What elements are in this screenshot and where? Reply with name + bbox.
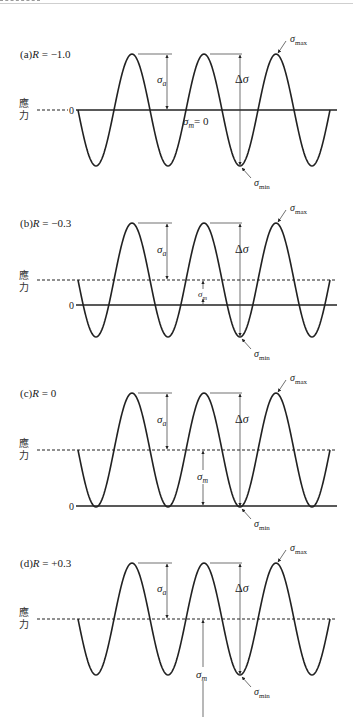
stress-axis-label: 力 xyxy=(19,281,29,293)
zero-label: 0 xyxy=(69,300,74,311)
panel-d: (d)R = +0.3應力σaΔσσmaxσminσm xyxy=(19,542,337,717)
panel-title: (b)R = −0.3 xyxy=(20,217,72,230)
sigma-m-label: σm xyxy=(198,289,207,301)
sigma-a-label: σa xyxy=(157,243,166,258)
stress-axis-label: 應 xyxy=(19,437,29,449)
panel-title: (d)R = +0.3 xyxy=(20,557,72,570)
delta-sigma-label: Δσ xyxy=(235,72,250,86)
panel-title: (a)R = −1.0 xyxy=(20,48,71,61)
sigma-min-pointer xyxy=(242,339,251,349)
sigma-min-label: σmin xyxy=(254,686,270,700)
stress-axis-label: 應 xyxy=(19,97,29,109)
sigma-min-label: σmin xyxy=(254,177,270,191)
panel-a: (a)R = −1.0應力0σaΔσσmaxσminσm= 0 xyxy=(19,33,337,191)
sigma-max-label: σmax xyxy=(290,542,307,556)
zero-label: 0 xyxy=(69,105,74,116)
sigma-max-label: σmax xyxy=(290,202,307,216)
panel-title: (c)R = 0 xyxy=(20,387,57,400)
stress-axis-label: 力 xyxy=(19,618,29,630)
sigma-min-pointer xyxy=(242,168,251,178)
sigma-min-label: σmin xyxy=(254,518,270,532)
sigma-a-label: σa xyxy=(157,73,166,88)
stress-axis-label: 應 xyxy=(19,269,29,281)
stress-axis-label: 力 xyxy=(19,449,29,461)
sigma-min-pointer xyxy=(242,677,251,687)
delta-sigma-label: Δσ xyxy=(235,581,250,595)
sigma-max-label: σmax xyxy=(290,372,307,386)
sigma-m-label: σm= 0 xyxy=(183,115,209,130)
sigma-max-pointer xyxy=(278,210,286,222)
sigma-max-label: σmax xyxy=(290,33,307,47)
stress-axis-label: 應 xyxy=(19,606,29,618)
sigma-min-label: σmin xyxy=(254,348,270,362)
stress-axis-label: 力 xyxy=(19,109,29,121)
stress-ratio-cycle-diagram: (a)R = −1.0應力0σaΔσσmaxσminσm= 0(b)R = −0… xyxy=(0,0,353,717)
sigma-max-pointer xyxy=(278,380,286,392)
sigma-min-pointer xyxy=(242,509,251,519)
sigma-max-pointer xyxy=(278,41,286,53)
panel-b: (b)R = −0.3應力0σaΔσσmaxσminσm xyxy=(19,202,337,362)
zero-label: 0 xyxy=(69,501,74,512)
sigma-max-pointer xyxy=(278,550,286,562)
sigma-a-label: σa xyxy=(157,582,166,597)
panel-c: (c)R = 0應力0σaΔσσmaxσminσm xyxy=(19,372,337,532)
delta-sigma-label: Δσ xyxy=(235,412,250,426)
sigma-a-label: σa xyxy=(157,413,166,428)
delta-sigma-label: Δσ xyxy=(235,242,250,256)
